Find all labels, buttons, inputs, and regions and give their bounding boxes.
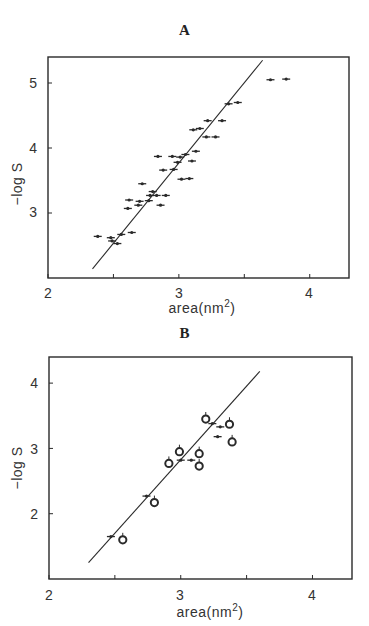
data-point (137, 204, 140, 207)
regression-line (89, 371, 260, 562)
y-axis-label-b: −log S (9, 446, 25, 489)
data-point (162, 169, 165, 172)
data-point (147, 199, 150, 202)
data-point (206, 119, 209, 122)
data-point (96, 235, 99, 238)
data-point-ring (229, 438, 236, 445)
data-point-ring (226, 421, 233, 428)
data-point (219, 425, 222, 428)
data-point-ring (196, 450, 203, 457)
x-tick-label-a-4: 4 (305, 285, 313, 301)
data-point (141, 182, 144, 185)
y-tick-label-a-5: 5 (29, 75, 37, 91)
data-point (126, 207, 129, 210)
data-point (111, 239, 114, 242)
data-point (155, 194, 158, 197)
data-point (138, 200, 141, 203)
data-point (227, 102, 230, 105)
data-point-ring (151, 499, 158, 506)
data-point (198, 127, 201, 130)
plot-frame-a (48, 57, 349, 278)
y-axis-label-a: −log S (9, 162, 25, 205)
data-point (130, 231, 133, 234)
data-point (164, 194, 167, 197)
plot-border (49, 357, 352, 579)
data-point-ring (119, 536, 126, 543)
data-point (109, 535, 112, 538)
data-point-ring (165, 460, 172, 467)
y-tick-label-a-4: 4 (29, 140, 37, 156)
data-point (179, 156, 182, 159)
y-tick-label-b-2: 2 (30, 506, 38, 522)
data-point (172, 168, 175, 171)
data-point (128, 198, 131, 201)
chart-panel-b: B 2 3 4 2 3 4 −log S area(nm2) (0, 320, 369, 626)
chart-panel-a: A 2 3 4 3 4 5 −log S area(nm2) (0, 0, 369, 320)
x-axis-label-b: area(nm2) (177, 602, 244, 620)
data-point (220, 119, 223, 122)
data-point (269, 78, 272, 81)
data-point (159, 204, 162, 207)
data-point (236, 101, 239, 104)
data-point (120, 233, 123, 236)
data-point (190, 459, 193, 462)
data-point (214, 135, 217, 138)
data-point (148, 194, 151, 197)
x-tick-label-a-2: 2 (44, 285, 52, 301)
data-point (205, 135, 208, 138)
data-point (194, 150, 197, 153)
scatter-plot-b: 2 3 4 2 3 4 −log S area(nm2) (0, 320, 369, 626)
data-point (179, 459, 182, 462)
data-point-ring (176, 448, 183, 455)
y-tick-label-a-3: 3 (29, 204, 37, 220)
data-point (151, 190, 154, 193)
data-point (171, 155, 174, 158)
data-point (211, 422, 214, 425)
x-tick-label-b-3: 3 (176, 587, 184, 603)
regression-line (92, 60, 262, 269)
data-point (192, 128, 195, 131)
data-point (188, 177, 191, 180)
x-tick-label-b-4: 4 (308, 587, 316, 603)
x-tick-label-a-3: 3 (175, 285, 183, 301)
data-point (116, 242, 119, 245)
y-tick-label-b-3: 3 (30, 441, 38, 457)
data-point-ring (196, 462, 203, 469)
scatter-plot-a: 2 3 4 3 4 5 −log S area(nm2) (0, 0, 369, 320)
y-tick-label-b-4: 4 (30, 375, 38, 391)
data-point (145, 494, 148, 497)
data-point (216, 435, 219, 438)
data-point (285, 78, 288, 81)
plot-border (48, 57, 349, 278)
data-point (190, 159, 193, 162)
data-point (180, 178, 183, 181)
data-point (176, 161, 179, 164)
x-tick-label-b-2: 2 (45, 587, 53, 603)
data-point (156, 155, 159, 158)
x-axis-label-a: area(nm2) (169, 298, 236, 316)
data-point (184, 153, 187, 156)
plot-frame-b (49, 357, 352, 579)
data-point (109, 236, 112, 239)
data-point-ring (202, 415, 209, 422)
